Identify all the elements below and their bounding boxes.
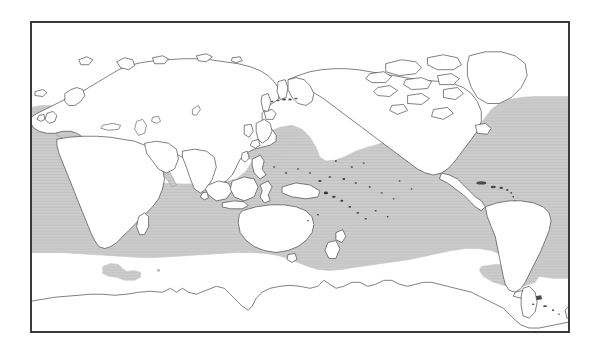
- figure-container: [0, 0, 600, 354]
- land-java: [222, 201, 248, 209]
- world-map: [31, 22, 569, 332]
- range-speck-se-atlantic: [157, 269, 160, 272]
- land-borneo: [230, 177, 258, 201]
- land-kamchatka: [277, 80, 288, 100]
- land-british-isles: [45, 111, 57, 123]
- map-frame: [30, 21, 570, 333]
